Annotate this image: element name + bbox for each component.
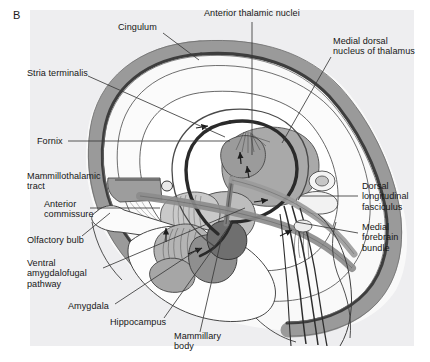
label-fornix: Fornix <box>37 136 63 146</box>
label-olfactory-bulb: Olfactory bulb <box>27 235 84 245</box>
label-medial-dorsal-nucleus-of-thalamus: Medial dorsal nucleus of thalamus <box>333 36 415 57</box>
label-mammillothalamic-tract: Mammillothalamic tract <box>27 171 101 192</box>
label-amygdala: Amygdala <box>68 301 109 311</box>
label-stria-terminalis: Stria terminalis <box>27 68 88 78</box>
limbic-system-figure: B <box>0 0 430 362</box>
label-cingulum: Cingulum <box>118 22 157 32</box>
mammillary-body <box>207 221 247 260</box>
label-medial-forebrain-bundle: Medial forebrain bundle <box>362 222 398 253</box>
label-dorsal-longitudinal-fasciculus: Dorsal longitudinal fasciculus <box>362 181 409 212</box>
label-ventral-amygdalofugal-pathway: Ventral amygdalofugal pathway <box>27 258 87 289</box>
anterior-commissure-structure <box>162 181 173 191</box>
label-hippocampus: Hippocampus <box>110 317 166 327</box>
label-mammillary-body: Mammillary body <box>174 331 221 352</box>
label-anterior-commissure: Anterior commissure <box>44 199 94 220</box>
label-anterior-thalamic-nuclei: Anterior thalamic nuclei <box>204 8 300 18</box>
